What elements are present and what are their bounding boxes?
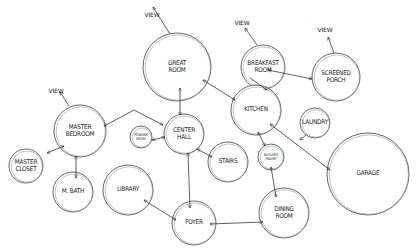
room-label-library: LIBRARY	[117, 186, 139, 193]
bubble-diagram: GREAT ROOMBREAKFAST ROOMSCREENED PORCHKI…	[0, 0, 416, 251]
room-label-garage: GARAGE	[357, 170, 380, 177]
room-label-breakfast-room: BREAKFAST ROOM	[247, 60, 278, 74]
room-label-laundry: LAUNDRY	[302, 119, 328, 126]
diagram-canvas	[0, 0, 416, 251]
view-arrow	[245, 28, 257, 45]
adjacency-arrow	[210, 222, 263, 224]
room-label-foyer: FOYER	[185, 219, 203, 226]
view-label: VIEW	[145, 11, 160, 18]
adjacency-arrow	[152, 137, 165, 140]
adjacency-arrow	[188, 153, 190, 208]
adjacency-arrow	[104, 110, 163, 126]
view-arrow	[328, 37, 334, 53]
room-label-center-hall: CENTER HALL	[173, 127, 195, 141]
view-label: VIEW	[235, 19, 250, 26]
room-label-butlers-pantry: BUTLER'S PANTRY	[264, 153, 278, 161]
room-label-dining-room: DINING ROOM	[274, 206, 294, 220]
room-label-powder-room: POWDER ROOM	[134, 133, 147, 141]
room-label-stairs: STAIRS	[219, 158, 238, 165]
view-arrow	[60, 92, 69, 106]
room-label-screened-porch: SCREENED PORCH	[321, 70, 351, 84]
adjacency-arrow	[300, 135, 306, 140]
room-label-kitchen: KITCHEN	[244, 106, 267, 113]
adjacency-arrow	[203, 80, 235, 100]
room-label-m-bath: M. BATH	[62, 188, 84, 195]
adjacency-arrow	[144, 200, 176, 220]
view-label: VIEW	[318, 26, 333, 33]
view-label: VIEW	[49, 87, 64, 94]
room-label-master-closet: MASTER CLOSET	[15, 159, 37, 173]
room-label-great-room: GREAT ROOM	[168, 60, 186, 74]
room-label-master-bedroom: MASTER BEDROOM	[66, 124, 95, 138]
